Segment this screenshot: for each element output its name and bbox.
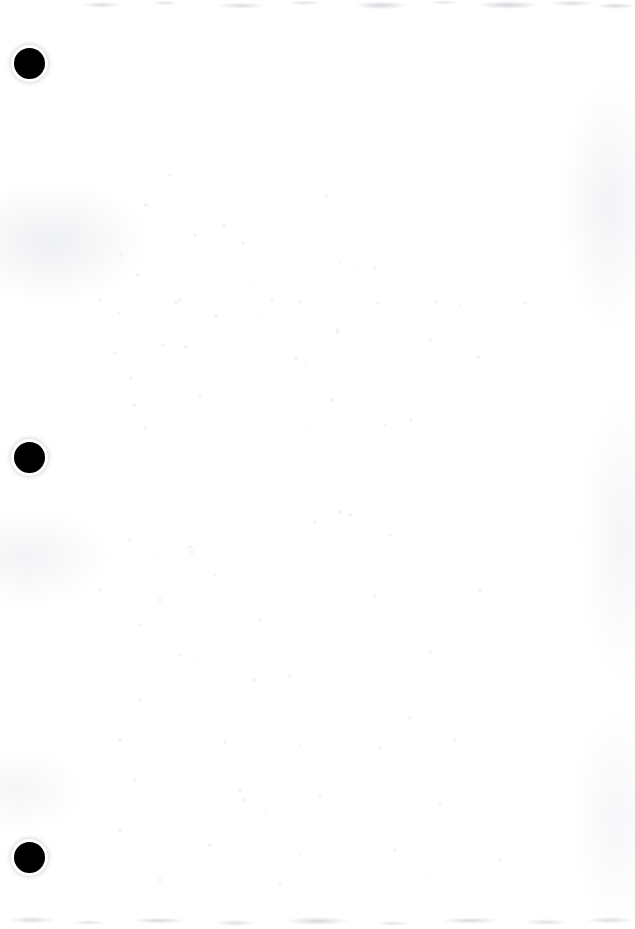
top-punch-hole xyxy=(14,48,45,79)
scanned-document-page xyxy=(0,0,635,929)
scan-dust-specks xyxy=(0,0,635,929)
middle-punch-hole xyxy=(14,442,45,473)
bottom-punch-hole xyxy=(14,842,45,873)
